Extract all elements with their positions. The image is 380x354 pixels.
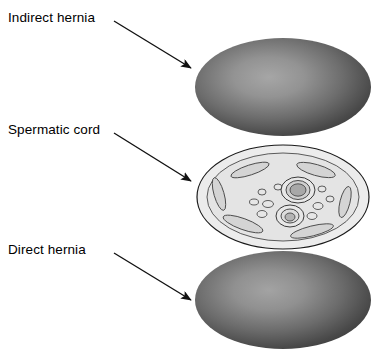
testicular-vessel	[276, 205, 304, 227]
leader-lines	[114, 21, 191, 300]
label-indirect-hernia: Indirect hernia	[8, 10, 95, 25]
figure-canvas: Indirect hernia Spermatic cord Direct he…	[0, 0, 380, 354]
cremaster-fibers	[210, 159, 354, 241]
leader-line-direct-hernia	[114, 253, 191, 300]
vein-2	[250, 199, 259, 205]
cremaster-fiber-right	[336, 185, 353, 218]
indirect-hernia-mass	[195, 38, 371, 136]
spermatic-cord-cross-section	[197, 145, 369, 249]
cremaster-fiber-top-right	[295, 159, 336, 181]
vein-3	[263, 201, 274, 208]
leader-line-spermatic-cord	[114, 133, 191, 181]
vein-9	[307, 213, 317, 220]
cremaster-fiber-left	[210, 176, 229, 211]
vein-5	[274, 184, 282, 190]
label-direct-hernia: Direct hernia	[8, 242, 86, 257]
cremaster-fiber-top-left	[229, 159, 270, 181]
vein-4	[257, 211, 267, 218]
vas-deferens	[281, 177, 315, 203]
vein-7	[326, 196, 334, 202]
diagram-artwork	[0, 0, 380, 354]
pampiniform-veins	[250, 184, 335, 220]
direct-hernia-mass	[195, 251, 371, 349]
vein-6	[318, 186, 326, 192]
label-spermatic-cord: Spermatic cord	[8, 122, 100, 137]
vein-1	[258, 189, 266, 195]
vein-8	[313, 203, 323, 210]
leader-line-indirect-hernia	[114, 21, 191, 68]
cremaster-fiber-bottom-left	[221, 212, 264, 237]
cremaster-fiber-bottom-right	[289, 221, 334, 241]
